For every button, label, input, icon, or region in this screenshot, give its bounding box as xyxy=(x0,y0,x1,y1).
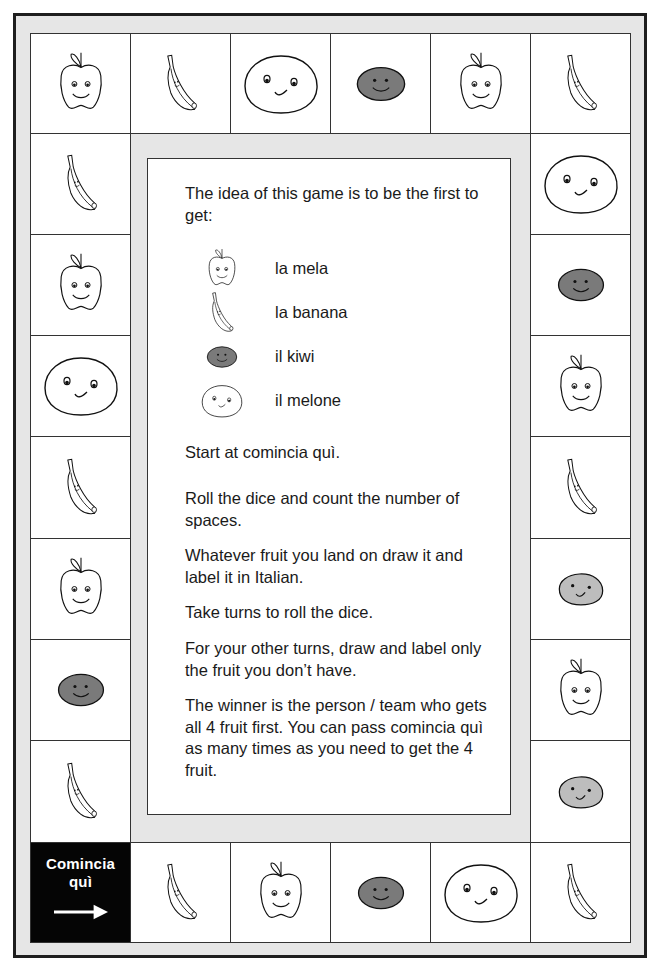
board-space-bottom-2-banana[interactable] xyxy=(130,842,231,943)
rule-3: Whatever fruit you land on draw it and l… xyxy=(185,545,495,588)
board-space-left-4-banana[interactable] xyxy=(30,436,131,539)
board-space-top-4-kiwi[interactable] xyxy=(330,33,431,134)
kiwi-icon xyxy=(55,671,107,709)
board-space-bottom-3-apple[interactable] xyxy=(230,842,331,943)
banana-icon xyxy=(161,862,201,924)
board-space-left-5-apple[interactable] xyxy=(30,538,131,640)
board-space-left-2-apple[interactable] xyxy=(30,234,131,336)
kiwi-icon xyxy=(205,344,239,370)
rule-5: For your other turns, draw and label onl… xyxy=(185,638,495,681)
board-space-left-1-banana[interactable] xyxy=(30,133,131,235)
legend-label: la mela xyxy=(275,259,328,278)
arrow-right-icon xyxy=(51,903,111,921)
start-space-comincia-qui[interactable]: Comincia quì xyxy=(30,842,131,943)
apple-icon xyxy=(56,252,106,318)
banana-icon xyxy=(61,457,101,519)
melon-icon xyxy=(441,861,521,925)
apple-icon xyxy=(556,657,606,723)
legend-item-apple: la mela xyxy=(148,249,508,289)
rule-6: The winner is the person / team who gets… xyxy=(185,695,497,781)
rule-2: Roll the dice and count the number of sp… xyxy=(185,488,495,531)
board-space-top-5-apple[interactable] xyxy=(430,33,531,134)
board-space-top-2-banana[interactable] xyxy=(130,33,231,134)
board-space-right-7-kiwi-light[interactable] xyxy=(530,740,631,843)
melon-icon xyxy=(41,354,121,418)
board-space-bottom-6-banana[interactable] xyxy=(530,842,631,943)
board-space-right-1-melon[interactable] xyxy=(530,133,631,235)
banana-icon xyxy=(561,53,601,115)
melon-icon xyxy=(200,382,244,420)
banana-icon xyxy=(61,153,101,215)
legend-item-melon: il melone xyxy=(148,381,508,421)
board-space-bottom-4-kiwi[interactable] xyxy=(330,842,431,943)
board-space-right-4-banana[interactable] xyxy=(530,436,631,539)
kiwi-light-icon xyxy=(556,570,606,608)
legend-label: la banana xyxy=(275,303,348,322)
legend-item-banana: la banana xyxy=(148,293,508,333)
legend-label: il kiwi xyxy=(275,347,314,366)
legend-label: il melone xyxy=(275,391,341,410)
banana-icon xyxy=(61,761,101,823)
kiwi-light-icon xyxy=(556,773,606,811)
apple-icon xyxy=(56,51,106,117)
kiwi-icon xyxy=(355,874,407,912)
board-space-right-5-kiwi-light[interactable] xyxy=(530,538,631,640)
legend-item-kiwi: il kiwi xyxy=(148,337,508,377)
board-space-top-6-banana[interactable] xyxy=(530,33,631,134)
start-label-line1: Comincia xyxy=(46,855,115,873)
melon-icon xyxy=(541,152,621,216)
apple-icon xyxy=(556,353,606,419)
kiwi-icon xyxy=(555,266,607,304)
board-space-top-3-melon[interactable] xyxy=(230,33,331,134)
board-space-right-3-apple[interactable] xyxy=(530,335,631,437)
kiwi-icon xyxy=(353,64,409,104)
board-space-right-2-kiwi[interactable] xyxy=(530,234,631,336)
banana-icon xyxy=(561,862,601,924)
rule-4: Take turns to roll the dice. xyxy=(185,602,495,624)
banana-icon xyxy=(161,53,201,115)
board-space-left-6-kiwi[interactable] xyxy=(30,639,131,741)
board-space-left-3-melon[interactable] xyxy=(30,335,131,437)
board-space-top-1-apple[interactable] xyxy=(30,33,131,134)
start-label-line2: quì xyxy=(69,873,92,891)
rule-1: Start at comincia quì. xyxy=(185,442,495,464)
board-space-right-6-apple[interactable] xyxy=(530,639,631,741)
board-space-left-7-banana[interactable] xyxy=(30,740,131,843)
apple-icon xyxy=(256,860,306,926)
instructions-intro: The idea of this game is to be the first… xyxy=(185,183,495,226)
apple-icon xyxy=(56,556,106,622)
banana-icon xyxy=(561,457,601,519)
board-space-bottom-5-melon[interactable] xyxy=(430,842,531,943)
apple-icon xyxy=(456,51,506,117)
banana-icon xyxy=(208,291,236,335)
apple-icon xyxy=(206,248,238,290)
instructions-card: The idea of this game is to be the first… xyxy=(147,158,511,815)
melon-icon xyxy=(241,52,321,116)
